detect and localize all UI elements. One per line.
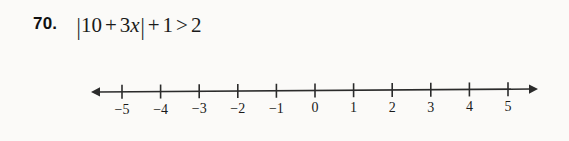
number-line: −5−4−3−2−1012345 xyxy=(0,60,569,141)
tick-label-2: 2 xyxy=(389,100,396,115)
tick-label-1: 1 xyxy=(350,100,357,115)
right-arrow-icon xyxy=(529,84,538,93)
tick-label-0: 0 xyxy=(312,100,319,115)
right-side-two: 2 xyxy=(191,13,202,37)
absolute-value-bar-open: | xyxy=(76,16,80,38)
problem-row: 70. |10+3x|+1>2 xyxy=(0,10,569,46)
number-line-svg: −5−4−3−2−1012345 xyxy=(0,60,569,141)
tick-label-5: 5 xyxy=(505,99,512,114)
tick-label-neg2: −2 xyxy=(230,101,245,116)
operator-plus-outside: + xyxy=(145,13,163,37)
tick-label-neg1: −1 xyxy=(269,101,284,116)
operator-plus-inside: + xyxy=(102,13,120,37)
tick-label-4: 4 xyxy=(466,99,473,114)
problem-expression: |10+3x|+1>2 xyxy=(76,10,201,40)
left-arrow-icon xyxy=(91,87,100,96)
tick-labels-group: −5−4−3−2−1012345 xyxy=(115,99,512,117)
absolute-value-bar-close: | xyxy=(140,16,144,38)
term-ten: 10 xyxy=(81,13,102,37)
tick-label-neg4: −4 xyxy=(153,102,168,117)
coefficient-three: 3 xyxy=(120,13,131,37)
tick-label-3: 3 xyxy=(427,100,434,115)
tick-label-neg3: −3 xyxy=(192,101,207,116)
tick-marks-group xyxy=(122,82,508,99)
variable-x: x xyxy=(130,13,139,37)
constant-one: 1 xyxy=(163,13,174,37)
problem-number: 70. xyxy=(33,14,57,34)
tick-label-neg5: −5 xyxy=(115,102,130,117)
worksheet-page: 70. |10+3x|+1>2 −5−4−3−2−1012345 xyxy=(0,0,569,141)
relation-greater-than: > xyxy=(173,13,191,37)
